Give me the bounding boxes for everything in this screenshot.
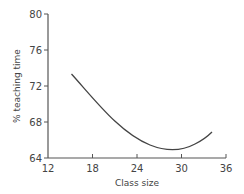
- y-tick-label: 80: [29, 9, 42, 20]
- y-tick-label: 76: [29, 45, 42, 56]
- chart: 80 76 72 68 64 % teaching time 12 18 24 …: [0, 0, 244, 194]
- y-axis: 80 76 72 68 64 % teaching time: [12, 9, 48, 164]
- y-axis-title: % teaching time: [12, 49, 22, 123]
- y-tick-label: 64: [29, 153, 42, 164]
- series-line: [72, 74, 213, 150]
- x-tick-label: 36: [220, 163, 233, 174]
- x-tick-label: 24: [131, 163, 144, 174]
- y-tick-label: 68: [29, 117, 42, 128]
- x-axis-title: Class size: [115, 178, 159, 188]
- x-tick-label: 12: [42, 163, 55, 174]
- x-axis: 12 18 24 30 36 Class size: [42, 154, 233, 188]
- x-tick-label: 30: [175, 163, 188, 174]
- x-tick-label: 18: [86, 163, 99, 174]
- y-tick-label: 72: [29, 81, 42, 92]
